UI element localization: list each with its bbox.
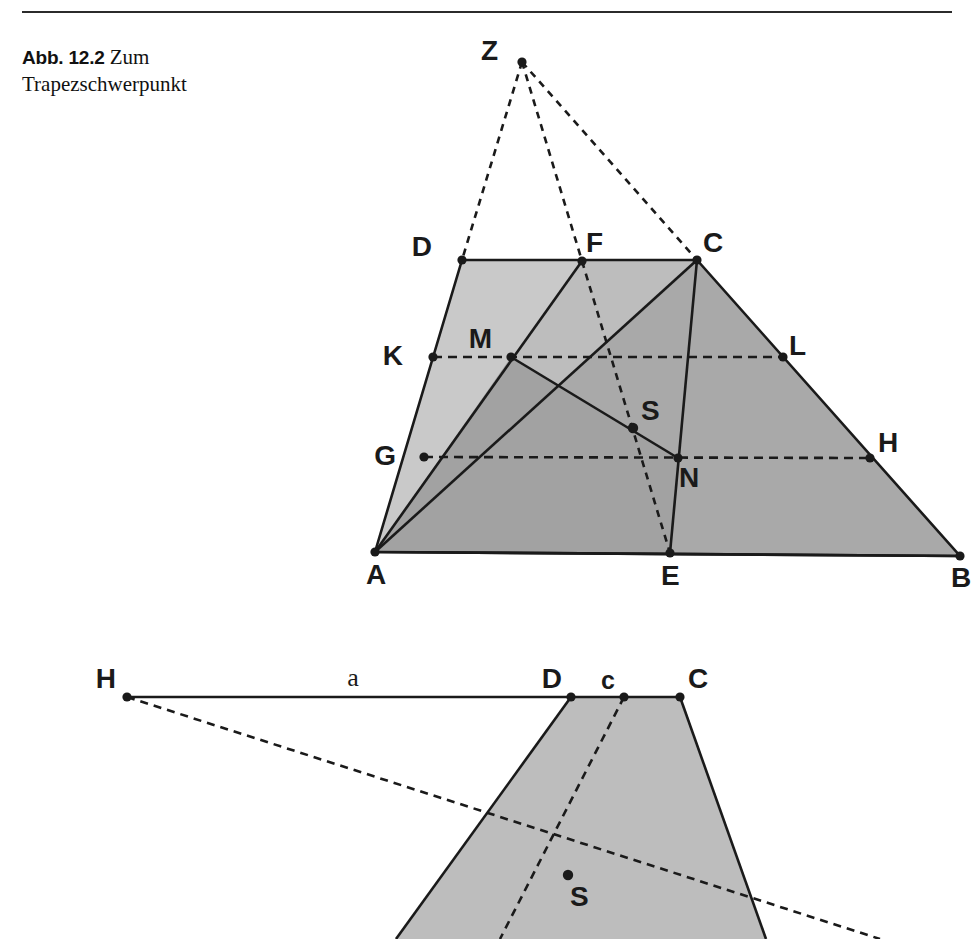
label-H-bottom: H bbox=[96, 663, 116, 694]
top-figure-group: Z D F C K M L S G N H A E B bbox=[366, 35, 971, 593]
point-G bbox=[419, 452, 428, 461]
label-S: S bbox=[641, 395, 660, 426]
point-H-bottom bbox=[122, 692, 131, 701]
label-A: A bbox=[366, 559, 386, 590]
ray-ZD bbox=[462, 62, 522, 260]
ray-ZC bbox=[522, 62, 697, 260]
label-D-bottom: D bbox=[542, 663, 562, 694]
label-H: H bbox=[878, 427, 898, 458]
point-L bbox=[778, 352, 787, 361]
point-D bbox=[457, 255, 466, 264]
figure-svg: Z D F C K M L S G N H A E B bbox=[0, 0, 976, 939]
point-D-bottom bbox=[566, 692, 575, 701]
point-C bbox=[692, 255, 701, 264]
point-Z bbox=[517, 57, 526, 66]
bottom-figure-group: H D c C S a bbox=[96, 663, 880, 939]
label-C-bottom: C bbox=[688, 663, 708, 694]
point-S-bottom bbox=[563, 870, 573, 880]
label-M: M bbox=[469, 323, 492, 354]
point-C-bottom bbox=[675, 692, 684, 701]
label-B: B bbox=[951, 562, 971, 593]
label-E: E bbox=[661, 560, 680, 591]
label-K: K bbox=[383, 340, 403, 371]
point-A bbox=[370, 547, 379, 556]
point-B bbox=[955, 551, 964, 560]
label-F: F bbox=[586, 227, 603, 258]
label-c-bottom: c bbox=[601, 666, 615, 694]
point-E bbox=[665, 548, 674, 557]
point-c-bottom bbox=[619, 692, 628, 701]
label-S-bottom: S bbox=[570, 881, 589, 912]
label-N: N bbox=[679, 462, 699, 493]
label-L: L bbox=[789, 330, 806, 361]
label-Z: Z bbox=[481, 35, 498, 66]
label-C: C bbox=[703, 227, 723, 258]
point-M bbox=[506, 352, 515, 361]
label-D: D bbox=[412, 231, 432, 262]
figure-page: Abb. 12.2 Zum Trapezschwerpunkt bbox=[0, 0, 976, 939]
point-K bbox=[428, 352, 437, 361]
point-S bbox=[628, 423, 638, 433]
label-segment-a: a bbox=[347, 663, 359, 692]
label-G: G bbox=[374, 440, 396, 471]
point-H bbox=[865, 453, 874, 462]
